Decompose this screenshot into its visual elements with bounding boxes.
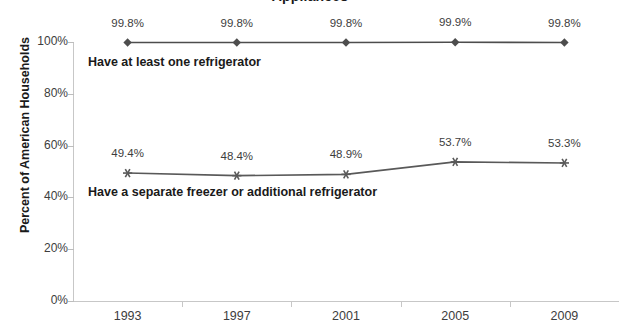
data-point-label: 99.8% [88,17,168,29]
plot-area [0,0,620,333]
data-marker-diamond [560,38,568,46]
data-marker-star [560,159,569,167]
data-marker-star [123,169,132,177]
chart-container: Appliances Percent of American Household… [0,0,620,333]
series-annotation-refrigerator: Have at least one refrigerator [88,55,261,69]
data-marker-diamond [233,38,241,46]
data-point-label: 99.8% [306,17,386,29]
data-point-label: 99.9% [415,16,495,28]
data-marker-diamond [451,38,459,46]
data-point-label: 99.8% [524,17,604,29]
data-marker-diamond [123,38,131,46]
data-marker-diamond [342,38,350,46]
data-point-label: 48.4% [197,150,277,162]
data-point-label: 53.3% [524,137,604,149]
series-annotation-freezer: Have a separate freezer or additional re… [88,185,377,199]
data-point-label: 49.4% [88,147,168,159]
data-point-label: 99.8% [197,17,277,29]
data-point-label: 48.9% [306,148,386,160]
data-marker-star [341,170,350,178]
data-marker-star [451,158,460,166]
data-point-label: 53.7% [415,136,495,148]
data-marker-star [232,172,241,180]
